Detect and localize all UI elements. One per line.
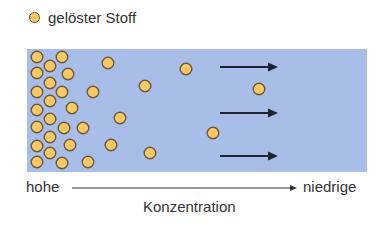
solute-particle (31, 121, 43, 133)
solute-particle (44, 113, 56, 125)
solute-particle (64, 139, 76, 151)
solute-particle (44, 147, 56, 159)
solute-particle (31, 140, 43, 152)
solute-particle (87, 86, 99, 98)
solute-particle (144, 147, 156, 159)
solute-particle (105, 139, 117, 151)
axis-title: Konzentration (143, 198, 236, 215)
solute-particle (139, 80, 151, 92)
solute-particle (44, 131, 56, 143)
solute-particle (31, 156, 43, 168)
solute-particle (253, 83, 265, 95)
solute-particle (31, 67, 43, 79)
solute-particle (44, 60, 56, 72)
solute-particle (66, 102, 78, 114)
solute-particle (31, 104, 43, 116)
solute-particle (207, 127, 219, 139)
solute-particle (44, 77, 56, 89)
solute-particle (180, 63, 192, 75)
concentration-axis (72, 185, 297, 191)
solute-particle (102, 57, 114, 69)
solute-particle (44, 95, 56, 107)
solute-particle (82, 156, 94, 168)
solute-particle (56, 51, 68, 63)
low-concentration-label: niedrige (303, 178, 356, 195)
axis-arrowhead-icon (290, 185, 297, 191)
solute-particle (56, 157, 68, 169)
solute-particle (31, 51, 43, 63)
solute-particle (62, 68, 74, 80)
solute-particle (56, 86, 68, 98)
high-concentration-label: hohe (26, 178, 59, 195)
solute-particle (77, 122, 89, 134)
solute-particle (58, 122, 70, 134)
solute-particle (114, 112, 126, 124)
solute-particle (31, 86, 43, 98)
